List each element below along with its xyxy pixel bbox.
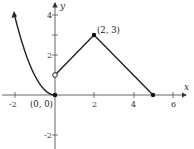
x-tick-label: -2 xyxy=(9,100,17,109)
y-axis-label: y xyxy=(59,1,66,11)
x-tick-label: 2 xyxy=(92,100,97,109)
x-tick-label: 6 xyxy=(171,100,176,109)
peak-label: (2, 3) xyxy=(97,25,120,35)
x-tick-label: 4 xyxy=(131,100,136,109)
origin-label: (0, 0) xyxy=(30,99,53,109)
rising-segment xyxy=(57,35,95,74)
open-point-0-1 xyxy=(53,73,58,78)
closed-point-5-0 xyxy=(151,93,155,97)
function-graph: -2 2 4 6 4 2 -2 x y (0, 0) (2, 3) xyxy=(0,0,194,149)
y-tick-label: 2 xyxy=(47,51,52,60)
y-tick-label: -2 xyxy=(44,131,52,140)
y-tick-label: 4 xyxy=(47,11,52,20)
x-axis-label: x xyxy=(184,82,189,92)
parabola-arrow-icon xyxy=(12,11,18,18)
falling-segment xyxy=(94,35,153,95)
closed-point-peak xyxy=(92,33,96,37)
closed-point-origin xyxy=(53,93,58,98)
